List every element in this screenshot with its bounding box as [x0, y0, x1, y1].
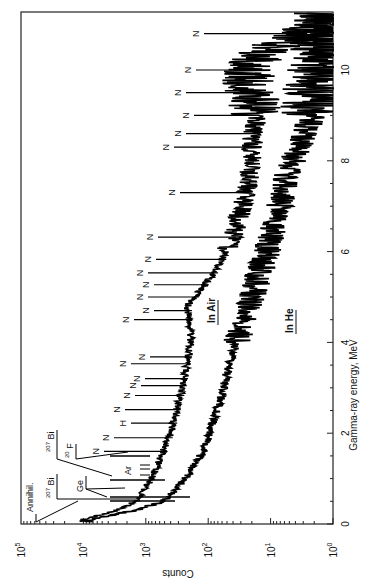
count-tick-label: 101: [264, 542, 277, 557]
annotation-n: N: [101, 434, 111, 441]
count-tick-text: 101: [264, 542, 277, 557]
energy-tick-label: 0: [340, 521, 351, 527]
energy-tick-label: 8: [340, 158, 351, 164]
annotation-n: N: [137, 354, 147, 361]
annotation-n: N: [118, 360, 128, 367]
label-in-he: In He: [284, 308, 295, 333]
count-tick-label: 103: [139, 542, 152, 557]
annotation-n: N: [122, 392, 132, 399]
annotation-n: N: [91, 448, 101, 455]
spectrum-curves: [80, 13, 333, 521]
annotation-n: N: [183, 67, 193, 74]
annotation-n: N: [145, 234, 155, 241]
y-axis-title: Counts: [162, 568, 194, 579]
count-tick-label: 102: [201, 542, 214, 557]
annotation-n: N: [121, 316, 131, 323]
ge-bracket: [86, 476, 125, 489]
annotation-n: N: [173, 130, 183, 137]
peak-annotations: NNHNNNNNNNNNNNNNNNNNNNNAnnihil.207 BiGe2…: [25, 30, 201, 512]
exponent: 2: [201, 542, 208, 546]
annotation-n: N: [143, 256, 153, 263]
annihil-bracket: [36, 501, 78, 522]
x-axis-title: Gamma-ray energy, MeV: [348, 339, 359, 451]
counts-tick-labels: 100101102103104105: [14, 542, 339, 557]
annotation-n: N: [128, 382, 138, 389]
annotation-n: N: [191, 30, 201, 37]
annotation-n: N: [181, 112, 191, 119]
annotation-n: N: [112, 406, 122, 413]
count-tick-text: 103: [139, 542, 152, 557]
annotation-ge: Ge: [75, 480, 85, 492]
annotation-n: N: [173, 89, 183, 96]
count-tick-text: 105: [14, 542, 27, 557]
count-tick-text: 100: [326, 542, 339, 557]
exponent: 5: [14, 542, 21, 546]
annotation-n: N: [135, 294, 145, 301]
annotation-annihil: Annihil.: [25, 482, 35, 512]
annotation-f-20: 20 F: [64, 443, 75, 458]
annotation-n: N: [132, 375, 142, 382]
element: Bi: [46, 477, 56, 488]
annotation-ar: Ar: [123, 466, 133, 475]
bi-low-bracket: [57, 474, 140, 499]
annotation-bi-207-low: 207 Bi: [45, 477, 56, 498]
exponent: 3: [139, 542, 146, 546]
count-tick-text: 104: [76, 542, 89, 557]
annotation-n: N: [141, 307, 151, 314]
annotation-n: N: [141, 281, 151, 288]
label-in-air: In Air: [206, 298, 217, 323]
annotation-n: N: [161, 144, 171, 151]
exponent: 4: [76, 542, 83, 546]
count-tick-label: 104: [76, 542, 89, 557]
element: Bi: [46, 431, 56, 442]
energy-tick-labels: 0246810: [340, 64, 351, 527]
exponent: 0: [326, 542, 333, 546]
annotation-n: N: [135, 270, 145, 277]
element: F: [65, 443, 75, 452]
annotation-h: H: [118, 420, 128, 427]
annotation-bi-207-high: 207 Bi: [45, 431, 56, 452]
exponent: 1: [264, 542, 271, 546]
ge-bracket-2: [86, 489, 107, 497]
count-tick-label: 105: [14, 542, 27, 557]
energy-tick-label: 10: [340, 64, 351, 76]
count-tick-label: 100: [326, 542, 339, 557]
curve-in-he: [86, 13, 333, 521]
annotation-n: N: [167, 189, 177, 196]
gamma-spectrum-chart: 100101102103104105 0246810 NNHNNNNNNNNNN…: [0, 0, 375, 584]
energy-tick-label: 6: [340, 248, 351, 254]
count-tick-text: 102: [201, 542, 214, 557]
